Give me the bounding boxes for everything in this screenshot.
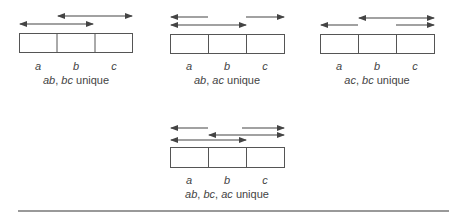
caption-part: bc	[61, 74, 73, 86]
column-label-b: b	[374, 60, 380, 72]
column-label-c: c	[262, 174, 268, 186]
caption-part: bc	[203, 188, 215, 200]
diagram-ab-bc-ac: a b c ab, bc, ac unique	[171, 128, 285, 200]
caption: ab, bc, ac unique	[185, 188, 269, 200]
column-label-c: c	[111, 60, 117, 72]
caption-part: bc	[362, 74, 374, 86]
caption-part: ab	[194, 74, 206, 86]
diagram-ab-bc: a b c ab, bc unique	[20, 16, 133, 86]
column-label-a: a	[186, 174, 192, 186]
column-label-b: b	[73, 60, 79, 72]
column-label-b: b	[224, 174, 230, 186]
caption: ab, bc unique	[43, 74, 109, 86]
column-label-a: a	[35, 60, 41, 72]
caption-part: unique	[374, 74, 410, 86]
relation-box	[20, 34, 133, 53]
column-label-c: c	[412, 60, 418, 72]
column-label-c: c	[262, 60, 268, 72]
caption-part: ac	[344, 74, 356, 86]
caption-part: unique	[224, 74, 260, 86]
caption: ac, bc unique	[344, 74, 409, 86]
relation-box	[321, 35, 435, 54]
caption-part: unique	[73, 74, 109, 86]
column-label-b: b	[224, 60, 230, 72]
relation-box	[171, 35, 285, 54]
diagram-ac-bc: a b c ac, bc unique	[321, 18, 435, 86]
caption-part: unique	[233, 188, 269, 200]
caption-part: ac	[212, 74, 224, 86]
column-label-a: a	[336, 60, 342, 72]
uniqueness-diagrams: a b c ab, bc unique a b c ab, ac unique	[0, 0, 455, 218]
diagram-ab-ac: a b c ab, ac unique	[171, 17, 285, 86]
relation-box	[171, 148, 285, 168]
column-label-a: a	[186, 60, 192, 72]
caption: ab, ac unique	[194, 74, 260, 86]
caption-part: ab	[43, 74, 55, 86]
caption-part: ac	[221, 188, 233, 200]
caption-part: ab	[185, 188, 197, 200]
